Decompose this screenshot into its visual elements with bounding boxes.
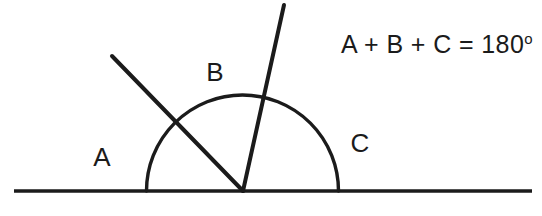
angle-label-b: B — [206, 59, 224, 85]
angle-sum-formula: A + B + C = 180o — [341, 30, 533, 59]
ray-right — [243, 5, 284, 191]
diagram-canvas: A B C A + B + C = 180o — [0, 0, 542, 216]
angle-label-a: A — [93, 144, 111, 170]
semicircle-arc — [147, 95, 339, 191]
formula-expression: A + B + C = 180 — [341, 30, 524, 58]
angle-label-c: C — [351, 130, 370, 156]
degree-symbol: o — [524, 30, 532, 47]
